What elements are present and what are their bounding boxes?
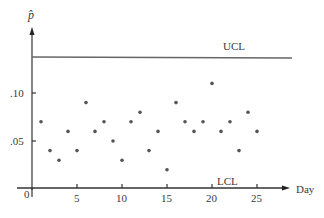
- data-point: [147, 149, 151, 153]
- data-point: [120, 158, 124, 162]
- data-point: [102, 120, 106, 124]
- data-point: [111, 139, 115, 143]
- data-point: [84, 101, 88, 105]
- data-point: [138, 110, 142, 114]
- y-axis-arrow-icon: [30, 27, 35, 35]
- x-tick-label-0: 0: [24, 188, 30, 200]
- x-tick-label-5: 5: [74, 192, 80, 204]
- data-point: [219, 130, 223, 134]
- data-point: [228, 120, 232, 124]
- x-axis-label: Day: [296, 183, 315, 195]
- y-tick-label-10: .10: [10, 87, 24, 99]
- y-tick-label-05: .05: [10, 135, 24, 147]
- data-point: [174, 101, 178, 105]
- data-point: [201, 120, 205, 124]
- data-point: [246, 110, 250, 114]
- data-point: [75, 149, 79, 153]
- y-axis-label: p̂: [27, 8, 34, 22]
- control-chart: p̂ .10 .05 Day LCL 0 5 10 15 20 25 UCL: [0, 0, 324, 218]
- data-point: [183, 120, 187, 124]
- data-point: [93, 130, 97, 134]
- data-point: [48, 149, 52, 153]
- data-point: [237, 149, 241, 153]
- data-point: [156, 130, 160, 134]
- x-axis-arrow-icon: [282, 186, 290, 191]
- x-tick-label-10: 10: [116, 192, 128, 204]
- data-point: [210, 82, 214, 86]
- data-point: [129, 120, 133, 124]
- x-tick-label-20: 20: [206, 192, 218, 204]
- ucl-line: [32, 57, 292, 58]
- data-point: [66, 130, 70, 134]
- lcl-label: LCL: [217, 175, 238, 187]
- data-point: [57, 158, 61, 162]
- data-point: [192, 130, 196, 134]
- data-point: [255, 130, 259, 134]
- data-point: [165, 168, 169, 172]
- x-tick-label-25: 25: [251, 192, 263, 204]
- ucl-label: UCL: [223, 40, 245, 52]
- data-point: [39, 120, 43, 124]
- data-points: [39, 82, 259, 172]
- x-tick-label-15: 15: [161, 192, 173, 204]
